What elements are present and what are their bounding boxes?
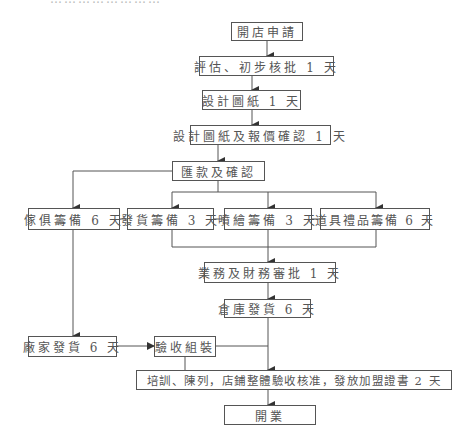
step-label: 道具禮品籌備 6 天: [315, 211, 434, 228]
step-label: 開店申請: [237, 23, 297, 40]
step-label: 設計圖紙及報價確認 1 天: [173, 127, 347, 144]
step-label: 發貨籌備 3 天: [121, 211, 220, 228]
step-design-quote-confirm: 設計圖紙及報價確認 1 天: [190, 125, 331, 145]
step-props-gifts-prep: 道具禮品籌備 6 天: [320, 208, 430, 230]
step-label: 評估、初步核批 1 天: [194, 58, 338, 75]
step-label: 業務及財務審批 1 天: [198, 264, 342, 281]
step-label: 廠家發貨 6 天: [23, 338, 122, 355]
step-label: 培訓、陳列，店鋪整體驗收核准，發放加盟證書 2 天: [147, 372, 441, 388]
step-label: 倉庫發貨 6 天: [218, 300, 317, 317]
step-training-final-approval: 培訓、陳列，店鋪整體驗收核准，發放加盟證書 2 天: [136, 370, 452, 390]
step-label: 傢俱籌備 6 天: [24, 211, 123, 228]
step-opening: 開業: [224, 405, 316, 425]
step-factory-shipping: 廠家發貨 6 天: [28, 336, 117, 357]
step-label: 設計圖紙 1 天: [202, 92, 301, 109]
step-inkjet-prep: 噴繪籌備 3 天: [224, 208, 312, 230]
step-acceptance-assembly: 驗收組裝: [154, 336, 216, 357]
step-design-drawing: 設計圖紙 1 天: [202, 90, 301, 110]
step-label: 匯款及確認: [181, 163, 256, 180]
step-warehouse-shipping: 倉庫發貨 6 天: [224, 299, 311, 318]
step-business-finance-approval: 業務及財務審批 1 天: [204, 262, 336, 283]
step-furniture-prep: 傢俱籌備 6 天: [28, 208, 120, 230]
step-label: 開業: [255, 407, 285, 424]
step-label: 驗收組裝: [155, 338, 215, 355]
step-label: 噴繪籌備 3 天: [218, 211, 317, 228]
step-open-application: 開店申請: [231, 22, 303, 41]
step-evaluation: 評估、初步核批 1 天: [199, 56, 334, 76]
step-shipping-prep: 發貨籌備 3 天: [127, 208, 214, 230]
step-payment-confirm: 匯款及確認: [172, 161, 265, 181]
